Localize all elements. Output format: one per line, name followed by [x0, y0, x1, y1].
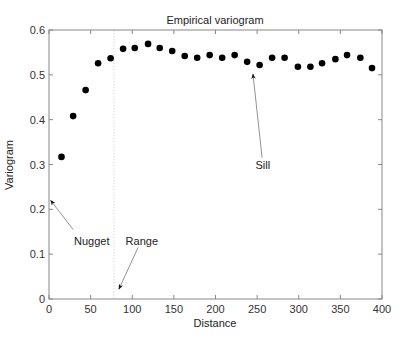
data-point [369, 65, 376, 72]
y-tick-label: 0.1 [30, 248, 45, 260]
data-point [169, 48, 176, 55]
data-point [231, 52, 238, 59]
data-point [319, 60, 326, 67]
data-point [244, 59, 251, 66]
data-point [58, 154, 65, 161]
data-point [145, 41, 152, 48]
data-point [156, 45, 163, 52]
data-point [181, 53, 188, 60]
annotation-label-sill: Sill [255, 159, 270, 171]
data-points [58, 41, 375, 161]
data-point [307, 63, 314, 70]
x-axis: 050100150200250300350400 [46, 30, 391, 315]
annotation-label-nugget: Nugget [74, 235, 109, 247]
y-axis: 00.10.20.30.40.50.6 [30, 24, 382, 305]
annotation-arrow [51, 200, 73, 229]
data-point [70, 113, 77, 120]
annotation-label-range: Range [126, 235, 158, 247]
x-tick-label: 350 [331, 303, 349, 315]
y-tick-label: 0.6 [30, 24, 45, 36]
data-point [256, 62, 263, 69]
x-tick-label: 200 [206, 303, 224, 315]
data-point [269, 54, 276, 61]
annotations: NuggetRangeSill [51, 74, 270, 289]
y-tick-label: 0 [39, 293, 45, 305]
x-tick-label: 150 [165, 303, 183, 315]
x-tick-label: 300 [290, 303, 308, 315]
variogram-chart: Empirical variogram 05010015020025030035… [0, 0, 406, 342]
x-axis-label: Distance [194, 317, 237, 329]
data-point [219, 54, 226, 61]
y-axis-label: Variogram [3, 140, 15, 190]
x-tick-label: 100 [123, 303, 141, 315]
annotation-arrow [253, 74, 262, 158]
data-point [120, 46, 127, 53]
data-point [95, 60, 102, 67]
data-point [357, 54, 364, 61]
data-point [281, 54, 288, 61]
y-tick-label: 0.2 [30, 203, 45, 215]
data-point [131, 45, 138, 52]
data-point [206, 52, 213, 59]
x-tick-label: 400 [373, 303, 391, 315]
data-point [194, 54, 201, 61]
data-point [344, 52, 351, 59]
y-tick-label: 0.4 [30, 114, 45, 126]
plot-frame [49, 30, 382, 299]
x-tick-label: 250 [248, 303, 266, 315]
y-tick-label: 0.5 [30, 69, 45, 81]
annotation-arrow [119, 247, 138, 289]
x-tick-label: 50 [85, 303, 97, 315]
data-point [82, 87, 89, 94]
y-tick-label: 0.3 [30, 159, 45, 171]
data-point [295, 63, 302, 70]
data-point [332, 56, 339, 63]
chart-title: Empirical variogram [166, 14, 263, 26]
data-point [107, 55, 114, 62]
x-tick-label: 0 [46, 303, 52, 315]
